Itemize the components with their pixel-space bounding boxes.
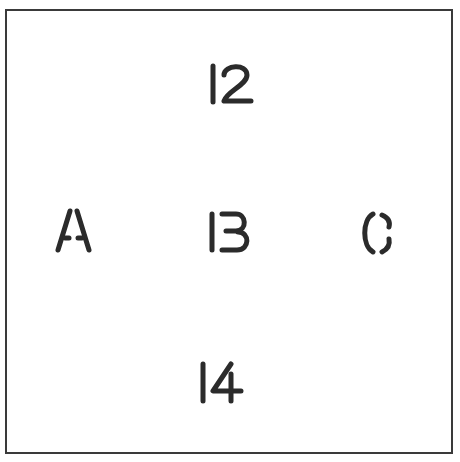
label-top-12 (207, 63, 257, 105)
label-center-text: 13 (0, 0, 1, 1)
label-right-C (360, 210, 396, 256)
label-top-text: 12 (0, 0, 1, 1)
label-right-text: C (0, 0, 1, 1)
label-left-text: A (0, 0, 1, 1)
label-bottom-14 (197, 360, 247, 406)
label-center-13 (206, 210, 256, 254)
label-left-A (55, 208, 95, 254)
label-bottom-text: 14 (0, 0, 1, 1)
